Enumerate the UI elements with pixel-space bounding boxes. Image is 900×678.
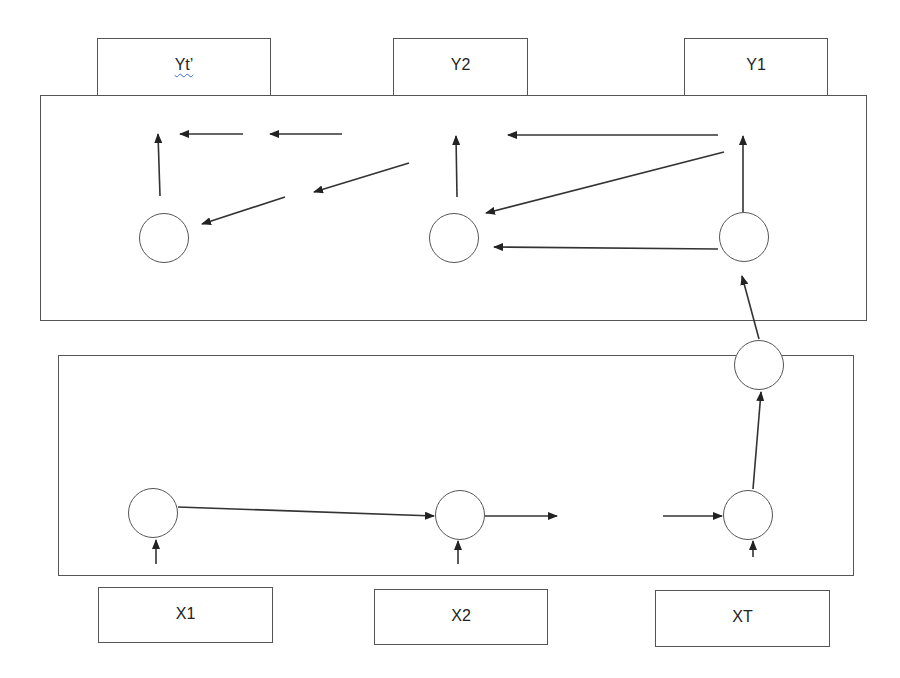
output-label-y2: Y2 [394,56,527,74]
encoder-node-1 [128,488,178,538]
input-box-x2: X2 [374,589,548,645]
input-box-x1: X1 [98,587,273,643]
input-label-x1: X1 [99,605,272,623]
output-box-y2: Y2 [393,38,528,96]
decoder-node-2 [429,213,479,263]
decoder-panel [40,95,867,321]
output-box-yt: Yt’ [97,38,271,96]
context-node [734,340,784,390]
output-label-yt: Yt’ [98,56,270,74]
output-box-y1: Y1 [684,38,828,96]
decoder-node-1 [719,212,769,262]
output-label-y1: Y1 [685,56,827,74]
encoder-node-2 [435,490,485,540]
input-label-x2: X2 [375,607,547,625]
input-box-xt: XT [655,590,830,647]
input-label-xt: XT [656,608,829,626]
encoder-panel [58,355,854,576]
encoder-node-t [723,490,773,540]
decoder-node-t [139,213,189,263]
